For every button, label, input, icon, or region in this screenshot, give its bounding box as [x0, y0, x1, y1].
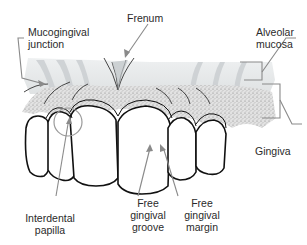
label-line: Interdental: [22, 212, 78, 224]
label-free-gingival-groove: Free gingival groove: [128, 197, 168, 233]
label-mucogingival-junction: Mucogingival junction: [28, 26, 89, 50]
tooth-right-canine: [196, 120, 226, 174]
label-line: gingival: [128, 209, 168, 221]
label-line: Frenum: [127, 12, 163, 24]
label-line: gingival: [182, 209, 222, 221]
label-gingiva: Gingiva: [255, 145, 291, 157]
label-free-gingival-margin: Free gingival margin: [182, 197, 222, 233]
tooth-right-lateral: [168, 118, 196, 180]
label-line: junction: [28, 38, 89, 50]
label-line: Gingiva: [255, 145, 291, 157]
tooth-left-central: [70, 106, 118, 186]
label-line: Free: [128, 197, 168, 209]
label-line: Mucogingival: [28, 26, 89, 38]
tooth-left-lateral: [26, 116, 51, 177]
label-interdental-papilla: Interdental papilla: [22, 212, 78, 236]
label-alveolar-mucosa: Alveolar mucosa: [256, 26, 294, 50]
label-line: papilla: [22, 224, 78, 236]
gingiva-diagram: Mucogingival junction Frenum Alveolar mu…: [0, 0, 307, 245]
label-line: Alveolar: [256, 26, 294, 38]
label-frenum: Frenum: [127, 12, 163, 24]
label-line: Free: [182, 197, 222, 209]
label-line: groove: [128, 221, 168, 233]
label-line: mucosa: [256, 38, 294, 50]
label-line: margin: [182, 221, 222, 233]
